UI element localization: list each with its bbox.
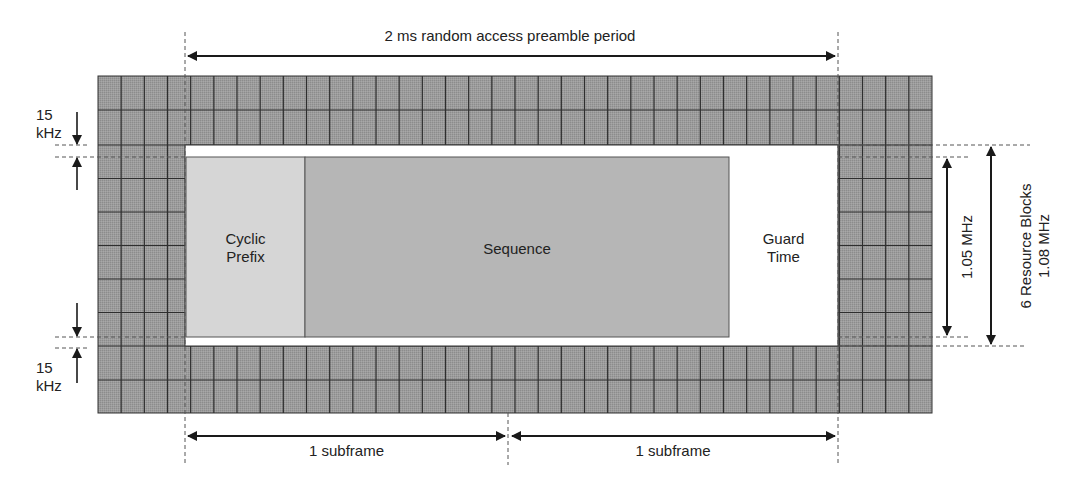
cyclic-prefix-label: Cyclic Prefix	[186, 230, 305, 266]
resource-blocks-label: 6 Resource Blocks 1.08 MHz	[1017, 171, 1053, 321]
preamble-bandwidth-label: 1.05 MHz	[958, 197, 976, 297]
subcarrier-spacing-bottom-unit: kHz	[36, 377, 62, 395]
subframe-1-label: 1 subframe	[185, 442, 508, 460]
subcarrier-spacing-top-label: 15 kHz	[36, 106, 62, 142]
sequence-label: Sequence	[305, 240, 729, 258]
preamble-period-label: 2 ms random access preamble period	[300, 27, 720, 45]
subcarrier-spacing-bottom-label: 15 kHz	[36, 359, 62, 395]
resource-blocks-label-line1: 6 Resource Blocks	[1017, 171, 1035, 321]
subcarrier-spacing-bottom-value: 15	[36, 359, 62, 377]
cyclic-prefix-label-line1: Cyclic	[186, 230, 305, 248]
cyclic-prefix-label-line2: Prefix	[186, 248, 305, 266]
guard-time-label-line1: Guard	[729, 230, 838, 248]
resource-blocks-label-line2: 1.08 MHz	[1035, 171, 1053, 321]
subcarrier-spacing-top-value: 15	[36, 106, 62, 124]
guard-time-label-line2: Time	[729, 248, 838, 266]
subframe-2-label: 1 subframe	[508, 442, 838, 460]
guard-time-label: Guard Time	[729, 230, 838, 266]
subcarrier-spacing-top-unit: kHz	[36, 124, 62, 142]
